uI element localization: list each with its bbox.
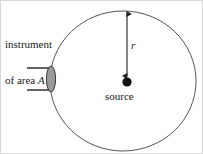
instrument-area-text: of area bbox=[5, 74, 38, 86]
instrument-area-symbol: A bbox=[38, 74, 45, 86]
source-label: source bbox=[105, 90, 134, 102]
instrument-label-line2: of area A bbox=[5, 74, 69, 86]
source-point-icon bbox=[122, 77, 131, 86]
instrument-label-line1: instrument bbox=[5, 38, 69, 50]
instrument-label: instrument of area A bbox=[5, 14, 69, 110]
radius-label: r bbox=[131, 39, 135, 51]
physics-diagram-figure: instrument of area A r source bbox=[0, 0, 203, 154]
